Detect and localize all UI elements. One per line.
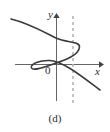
x-axis-label: x (95, 66, 100, 77)
figure-container: y x 0 (d) (0, 0, 110, 132)
origin-label: 0 (45, 65, 51, 76)
figure-caption: (d) (0, 112, 110, 124)
y-axis-arrow-icon (53, 13, 59, 18)
y-axis-label: y (48, 9, 53, 20)
y-axis (53, 13, 59, 101)
function-curve (11, 19, 100, 90)
plot-area (0, 0, 110, 110)
